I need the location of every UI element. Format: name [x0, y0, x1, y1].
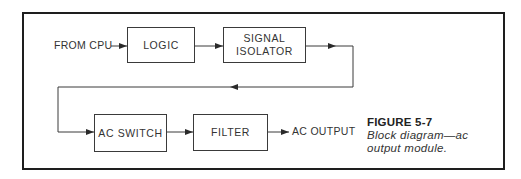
- ac-output-label: AC OUTPUT: [292, 125, 355, 137]
- figure-caption: FIGURE 5-7 Block diagram—ac output modul…: [367, 116, 497, 155]
- filter-label: FILTER: [211, 126, 250, 139]
- filter-block: FILTER: [193, 114, 268, 151]
- ac-switch-label: AC SWITCH: [98, 127, 162, 140]
- from-cpu-label: FROM CPU: [54, 39, 112, 51]
- logic-block-label: LOGIC: [143, 39, 179, 52]
- figure-number: FIGURE 5-7: [367, 116, 497, 129]
- logic-block: LOGIC: [127, 27, 195, 63]
- figure-description-line2: output module.: [367, 142, 497, 155]
- signal-isolator-label-line2: ISOLATOR: [236, 45, 293, 58]
- ac-switch-block: AC SWITCH: [94, 114, 167, 152]
- figure-description-line1: Block diagram—ac: [367, 129, 497, 142]
- signal-isolator-block: SIGNAL ISOLATOR: [223, 27, 306, 63]
- signal-isolator-label-line1: SIGNAL: [243, 32, 285, 45]
